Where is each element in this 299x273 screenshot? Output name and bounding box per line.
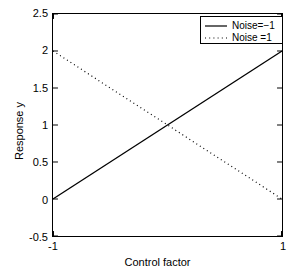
y-tick-label--0.5: -0.5 [8, 232, 48, 243]
legend-solid-line-icon [204, 21, 228, 31]
figure-canvas: 2.5 2 1.5 1 0.5 0 -0.5 -1 1 Control fact… [0, 0, 299, 273]
legend: Noise=−1 Noise =1 [200, 16, 283, 44]
plot-area [52, 13, 283, 237]
legend-entry-noise-minus-1: Noise=−1 [204, 20, 279, 31]
x-axis-label: Control factor [0, 256, 299, 268]
plot-svg [53, 14, 282, 236]
x-tick-label--1: -1 [48, 241, 58, 252]
legend-dotted-line-icon [204, 33, 228, 43]
legend-label-noise-plus-1: Noise =1 [232, 33, 272, 43]
x-tick-label-1: 1 [280, 241, 286, 252]
y-axis-label: Response y [13, 76, 25, 186]
x-axis-label-text: Control factor [124, 256, 190, 268]
series-line-noise-minus-1 [53, 51, 282, 199]
y-tick-label-2.5: 2.5 [8, 8, 48, 19]
y-tick-label-0: 0 [8, 194, 48, 205]
y-tick-label-2: 2 [8, 45, 48, 56]
legend-entry-noise-plus-1: Noise =1 [204, 32, 279, 43]
legend-label-noise-minus-1: Noise=−1 [232, 21, 275, 31]
